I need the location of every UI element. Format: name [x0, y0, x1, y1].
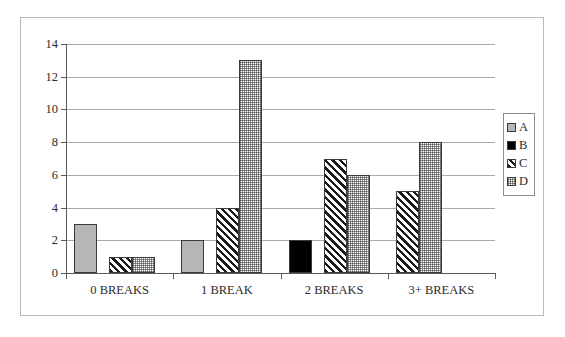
bar-0-breaks-d[interactable] [132, 257, 155, 273]
legend-item-a[interactable]: A [507, 118, 534, 136]
legend-label-d: D [519, 175, 528, 188]
y-axis-tick-label: 10 [18, 103, 58, 116]
x-axis-tick [495, 274, 496, 279]
y-axis-tick [61, 44, 66, 45]
y-axis-tick-label: 12 [18, 71, 58, 84]
chart-legend: A B C D [503, 113, 535, 196]
y-axis-tick [61, 240, 66, 241]
legend-swatch-a-icon [507, 123, 516, 132]
bar-2-breaks-b[interactable] [289, 240, 312, 273]
legend-swatch-c-icon [507, 159, 516, 168]
x-axis-category-label: 1 BREAK [173, 284, 280, 298]
y-axis-tick [61, 77, 66, 78]
bar-1-break-c[interactable] [216, 208, 239, 273]
bar-2-breaks-d[interactable] [347, 175, 370, 273]
legend-item-b[interactable]: B [507, 136, 534, 154]
x-axis-category-label: 2 BREAKS [281, 284, 388, 298]
bar-0-breaks-a[interactable] [74, 224, 97, 273]
y-axis-tick [61, 142, 66, 143]
legend-label-b: B [519, 139, 527, 152]
y-axis-tick-label: 0 [18, 267, 58, 280]
x-axis-tick [388, 274, 389, 279]
legend-label-a: A [519, 121, 528, 134]
bar-1-break-a[interactable] [181, 240, 204, 273]
bar-1-break-d[interactable] [239, 60, 262, 273]
legend-item-d[interactable]: D [507, 172, 534, 190]
bar-3-breaks-c[interactable] [396, 191, 419, 273]
y-axis-tick [61, 208, 66, 209]
x-axis-tick [66, 274, 67, 279]
y-axis-tick-label: 2 [18, 234, 58, 247]
y-axis-tick-label: 4 [18, 202, 58, 215]
gridline [66, 44, 495, 45]
y-axis-tick [61, 175, 66, 176]
x-axis-category-label: 3+ BREAKS [388, 284, 495, 298]
legend-swatch-d-icon [507, 177, 516, 186]
x-axis-tick [281, 274, 282, 279]
legend-item-c[interactable]: C [507, 154, 534, 172]
bar-0-breaks-c[interactable] [109, 257, 132, 273]
x-axis-tick [173, 274, 174, 279]
y-axis-tick-label: 6 [18, 169, 58, 182]
legend-label-c: C [519, 157, 527, 170]
plot-area [66, 44, 495, 273]
y-axis-tick-label: 8 [18, 136, 58, 149]
y-axis-line [66, 44, 67, 274]
gridline [66, 109, 495, 110]
y-axis-tick-label: 14 [18, 38, 58, 51]
bar-chart-figure: A B C D 024681012140 BREAKS1 BREAK2 BREA… [0, 0, 565, 337]
x-axis-category-label: 0 BREAKS [66, 284, 173, 298]
gridline [66, 77, 495, 78]
legend-swatch-b-icon [507, 141, 516, 150]
bar-3-breaks-d[interactable] [419, 142, 442, 273]
bar-2-breaks-c[interactable] [324, 159, 347, 274]
y-axis-tick [61, 109, 66, 110]
